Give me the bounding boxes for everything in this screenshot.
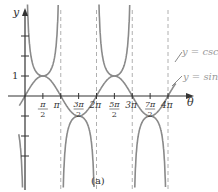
y-tick-label-1: 1 — [12, 70, 18, 81]
x-tick-label: 4π — [160, 100, 174, 110]
csc-sin-graph: π2π3π22π5π23π7π24π y θ 1 y = csc θ y = s… — [0, 0, 218, 192]
csc-branch — [99, 4, 130, 76]
legend-csc: y = csc θ — [181, 46, 218, 57]
x-tick-label-num: 3π — [73, 100, 84, 109]
x-tick-label-den: 2 — [112, 110, 117, 119]
x-tick-label-num: 5π — [109, 100, 120, 109]
sin-legend-leader — [172, 76, 182, 86]
x-tick-label-den: 2 — [40, 110, 45, 119]
csc-branch — [28, 4, 59, 76]
x-tick-label-num: π — [39, 100, 46, 109]
x-tick-label: π — [53, 100, 61, 110]
legend-sin: y = sin θ — [182, 71, 218, 82]
x-tick-label-den: 2 — [76, 110, 81, 119]
csc-branch — [63, 116, 94, 188]
x-tick-label: 2π — [89, 100, 103, 110]
y-axis-label: y — [12, 6, 20, 19]
figure-caption: (a) — [91, 175, 105, 186]
csc-branch — [135, 116, 166, 188]
x-tick-label: 3π — [125, 100, 138, 110]
x-tick-label-num: 7π — [145, 100, 156, 109]
x-axis-label: θ — [187, 96, 194, 109]
csc-branch — [19, 134, 23, 187]
csc-legend-leader — [175, 52, 182, 62]
x-tick-label-den: 2 — [148, 110, 153, 119]
